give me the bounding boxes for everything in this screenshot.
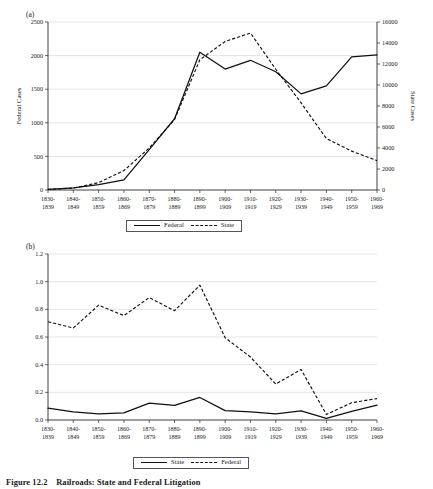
x-tick-label: 1850- — [92, 196, 106, 202]
x-tick-label: 1849 — [67, 204, 79, 210]
series-line-federal — [48, 285, 377, 414]
x-tick-label: 1840- — [66, 426, 80, 432]
x-tick-label: 1960- — [370, 196, 384, 202]
y-tick-label: 0.6 — [35, 333, 43, 340]
x-tick-label: 1910- — [243, 426, 257, 432]
x-tick-label: 1919 — [244, 204, 256, 210]
x-tick-label: 1969 — [371, 434, 383, 440]
x-tick-label: 1959 — [346, 204, 358, 210]
y-tick-label: 1.2 — [35, 250, 43, 257]
y2-tick-label: 10000 — [382, 81, 397, 88]
x-tick-label: 1899 — [194, 434, 206, 440]
x-tick-label: 1939 — [295, 434, 307, 440]
y2-tick-label: 14000 — [382, 39, 397, 46]
x-tick-label: 1920- — [269, 196, 283, 202]
panel-a-plot: 0500100015002000250002000400060008000100… — [0, 8, 433, 220]
x-tick-label: 1909 — [219, 434, 231, 440]
x-tick-label: 1919 — [244, 434, 256, 440]
x-tick-label: 1830- — [41, 196, 55, 202]
x-tick-label: 1909 — [219, 204, 231, 210]
y-tick-label: 0.0 — [35, 416, 43, 423]
figure-caption-text: Railroads: State and Federal Litigation — [56, 478, 200, 487]
x-tick-label: 1860- — [117, 196, 131, 202]
x-tick-label: 1869 — [118, 434, 130, 440]
legend-label-federal: Federal — [221, 459, 241, 466]
x-tick-label: 1940- — [319, 196, 333, 202]
x-tick-label: 1950- — [345, 196, 359, 202]
x-tick-label: 1879 — [143, 434, 155, 440]
x-tick-label: 1859 — [93, 434, 105, 440]
chart-panel-b: (b) 0.00.20.40.60.81.01.21830-18391840-1… — [0, 240, 433, 480]
y2-tick-label: 12000 — [382, 60, 397, 67]
y2-tick-label: 0 — [382, 186, 385, 193]
y-tick-label: 0.4 — [35, 361, 43, 368]
x-tick-label: 1839 — [42, 434, 54, 440]
x-tick-label: 1940- — [319, 426, 333, 432]
x-tick-label: 1949 — [320, 434, 332, 440]
legend-label-federal: Federal — [164, 222, 184, 229]
legend-swatch-federal — [191, 462, 217, 463]
x-tick-label: 1960- — [370, 426, 384, 432]
x-tick-label: 1890- — [193, 196, 207, 202]
x-tick-label: 1900- — [218, 426, 232, 432]
y2-axis-title: State Cases — [410, 91, 417, 122]
legend-swatch-state — [141, 462, 167, 463]
x-tick-label: 1880- — [168, 426, 182, 432]
x-tick-label: 1920- — [269, 426, 283, 432]
x-tick-label: 1839 — [42, 204, 54, 210]
figure-caption-number: Figure 12.2 — [6, 478, 47, 487]
x-tick-label: 1959 — [346, 434, 358, 440]
legend-label-state: State — [171, 459, 184, 466]
legend-entry-state: State — [141, 459, 184, 466]
x-tick-label: 1840- — [66, 196, 80, 202]
panel-a-legend: FederalState — [126, 220, 242, 232]
x-tick-label: 1870- — [142, 426, 156, 432]
y2-tick-label: 2000 — [382, 165, 394, 172]
y-tick-label: 0 — [40, 186, 43, 193]
figure-railroads-litigation: (a) 050010001500200025000200040006000800… — [0, 0, 433, 489]
y-tick-label: 2500 — [31, 18, 43, 25]
x-tick-label: 1870- — [142, 196, 156, 202]
x-tick-label: 1880- — [168, 196, 182, 202]
x-tick-label: 1860- — [117, 426, 131, 432]
y-tick-label: 0.2 — [35, 388, 43, 395]
legend-swatch-federal — [134, 225, 160, 226]
x-tick-label: 1890- — [193, 426, 207, 432]
panel-b-label: (b) — [26, 242, 35, 251]
x-tick-label: 1869 — [118, 204, 130, 210]
x-tick-label: 1830- — [41, 426, 55, 432]
x-tick-label: 1850- — [92, 426, 106, 432]
legend-entry-federal: Federal — [191, 459, 241, 466]
x-tick-label: 1969 — [371, 204, 383, 210]
x-tick-label: 1929 — [270, 204, 282, 210]
legend-label-state: State — [221, 222, 234, 229]
series-line-federal — [48, 52, 377, 189]
x-tick-label: 1910- — [243, 196, 257, 202]
y-tick-label: 1000 — [31, 119, 43, 126]
y-tick-label: 2000 — [31, 52, 43, 59]
y2-tick-label: 6000 — [382, 123, 394, 130]
legend-entry-state: State — [191, 222, 234, 229]
y2-tick-label: 4000 — [382, 144, 394, 151]
x-tick-label: 1889 — [169, 434, 181, 440]
x-tick-label: 1889 — [169, 204, 181, 210]
x-tick-label: 1930- — [294, 196, 308, 202]
y-tick-label: 0.8 — [35, 305, 43, 312]
x-tick-label: 1879 — [143, 204, 155, 210]
x-tick-label: 1930- — [294, 426, 308, 432]
chart-panel-a: (a) 050010001500200025000200040006000800… — [0, 8, 433, 240]
x-tick-label: 1900- — [218, 196, 232, 202]
figure-caption: Figure 12.2 Railroads: State and Federal… — [6, 478, 200, 487]
panel-b-plot: 0.00.20.40.60.81.01.21830-18391840-18491… — [0, 240, 433, 458]
legend-entry-federal: Federal — [134, 222, 184, 229]
x-tick-label: 1949 — [320, 204, 332, 210]
y-tick-label: 1.0 — [35, 278, 43, 285]
series-line-state — [48, 397, 377, 418]
panel-a-label: (a) — [26, 10, 34, 19]
legend-swatch-state — [191, 225, 217, 226]
series-line-state — [48, 33, 377, 189]
x-tick-label: 1859 — [93, 204, 105, 210]
x-tick-label: 1939 — [295, 204, 307, 210]
x-tick-label: 1929 — [270, 434, 282, 440]
y-axis-title: Federal Cases — [15, 87, 22, 124]
